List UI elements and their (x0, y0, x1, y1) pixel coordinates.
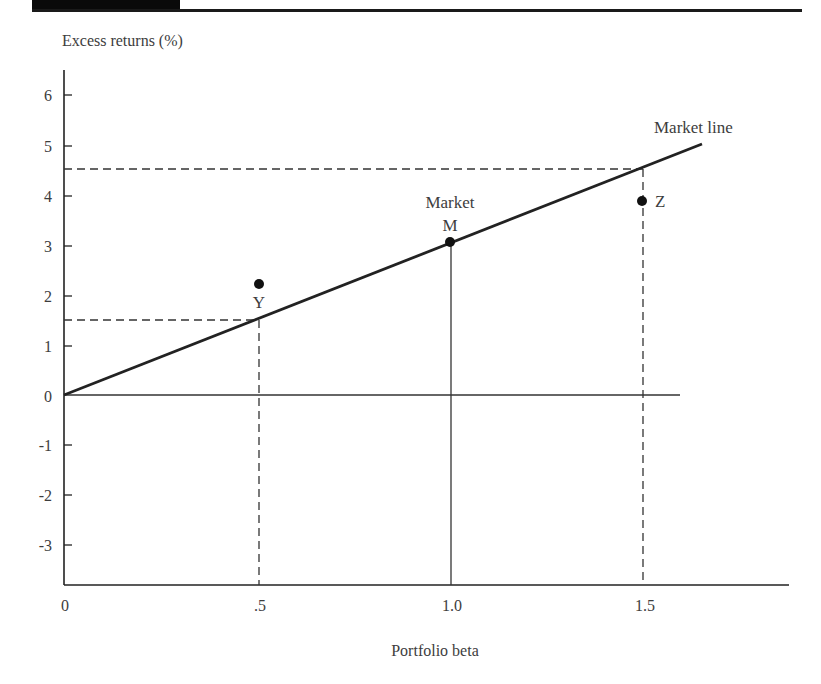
y-tick-label: -1 (39, 437, 52, 454)
market-annotation: Market (425, 193, 474, 212)
point-m (445, 237, 455, 247)
y-tick-label: 1 (44, 338, 52, 355)
y-tick-label: 5 (44, 138, 52, 155)
y-axis-title: Excess returns (%) (62, 32, 183, 50)
y-tick-label: 4 (44, 188, 52, 205)
market-line (64, 144, 702, 395)
y-tick-label: 6 (44, 87, 52, 104)
y-tick-label: 2 (44, 288, 52, 305)
chart: Excess returns (%) 6 5 4 3 2 1 0 -1 -2 -… (0, 0, 821, 684)
point-m-label: M (442, 216, 457, 235)
point-z (637, 196, 647, 206)
x-axis-title: Portfolio beta (391, 642, 479, 659)
y-tick-label: -2 (39, 487, 52, 504)
x-tick-label: 1.5 (635, 597, 655, 614)
market-line-label: Market line (654, 118, 733, 137)
point-z-label: Z (655, 192, 665, 211)
point-y (254, 279, 264, 289)
y-tick-label: 0 (44, 388, 52, 405)
y-tick-label: 3 (44, 238, 52, 255)
point-y-label: Y (253, 293, 265, 312)
reference-lines (64, 169, 643, 585)
x-tick-label: 1.0 (442, 597, 462, 614)
x-tick-label: 0 (61, 597, 69, 614)
x-tick-label: .5 (254, 597, 266, 614)
y-tick-label: -3 (39, 537, 52, 554)
